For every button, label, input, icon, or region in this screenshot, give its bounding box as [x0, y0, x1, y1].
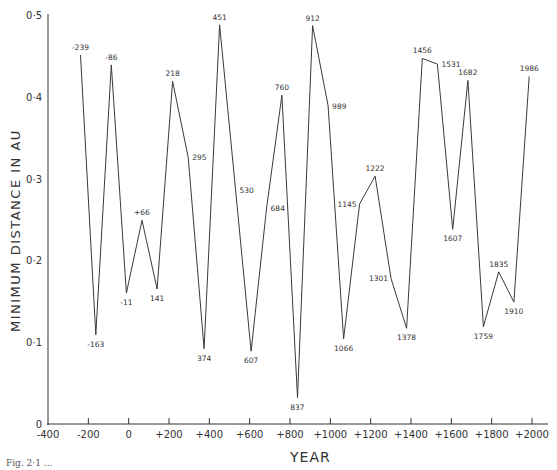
x-tick-label: -200 — [77, 429, 100, 440]
data-point-label: 1456 — [413, 46, 432, 55]
x-tick-label: +1000 — [313, 429, 347, 440]
data-point-label: 295 — [192, 153, 207, 162]
data-point-label: 1986 — [520, 64, 539, 73]
line-chart: -400-2000+200+400+600+800+1000+1200+1400… — [0, 0, 557, 470]
x-tick-label: +1200 — [354, 429, 388, 440]
data-point-label: 607 — [244, 356, 259, 365]
x-tick-label: -400 — [37, 429, 60, 440]
data-point-label: 1910 — [504, 307, 523, 316]
data-point-label: 1378 — [397, 333, 416, 342]
data-point-label: 837 — [290, 403, 305, 412]
data-point-label: 760 — [275, 83, 290, 92]
y-tick-label: 0·2 — [26, 255, 42, 266]
data-point-label: 374 — [197, 354, 212, 363]
data-point-label: 1145 — [337, 200, 356, 209]
x-tick-label: +400 — [196, 429, 223, 440]
data-point-label: -239 — [72, 43, 89, 52]
y-tick-label: 0·5 — [26, 10, 42, 21]
y-tick-label: 0·1 — [26, 337, 42, 348]
data-point-label: 218 — [165, 69, 180, 78]
data-point-label: 989 — [332, 102, 347, 111]
y-ticks: 00·10·20·30·40·5 — [26, 10, 42, 430]
x-tick-label: 0 — [125, 429, 131, 440]
data-point-label: 1835 — [489, 260, 508, 269]
data-point-label: -86 — [105, 53, 117, 62]
data-point-label: 912 — [305, 14, 320, 23]
x-tick-label: +600 — [236, 429, 263, 440]
y-tick-label: 0 — [36, 419, 42, 430]
x-ticks: -400-2000+200+400+600+800+1000+1200+1400… — [37, 418, 549, 440]
data-point-label: 684 — [271, 204, 286, 213]
x-tick-label: +2000 — [515, 429, 549, 440]
data-point-label: 1301 — [369, 274, 388, 283]
data-point-label: 1682 — [458, 68, 477, 77]
x-axis-label: YEAR — [289, 449, 331, 465]
data-point-label: 1759 — [474, 332, 493, 341]
y-tick-label: 0·3 — [26, 174, 42, 185]
data-point-label: -11 — [120, 298, 132, 307]
data-point-label: 1222 — [366, 164, 385, 173]
x-tick-label: +1600 — [434, 429, 468, 440]
y-tick-label: 0·4 — [26, 92, 42, 103]
x-tick-label: +1400 — [394, 429, 428, 440]
data-point-label: -163 — [87, 340, 104, 349]
x-tick-label: +800 — [276, 429, 303, 440]
data-point-label: 451 — [212, 13, 227, 22]
figure-caption: Fig. 2·1 ... — [6, 458, 52, 468]
y-axis-label: MINIMUM DISTANCE IN AU — [8, 129, 23, 332]
x-tick-label: +200 — [155, 429, 182, 440]
data-point-label: 1066 — [334, 344, 353, 353]
data-point-label: 530 — [240, 186, 255, 195]
data-point-label: +66 — [134, 208, 150, 217]
data-point-label: 141 — [150, 294, 165, 303]
x-tick-label: +1800 — [475, 429, 509, 440]
data-point-label: 1607 — [443, 234, 462, 243]
